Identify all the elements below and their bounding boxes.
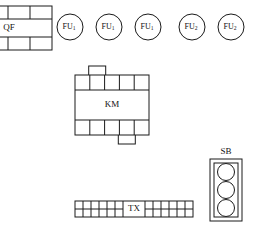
strip-label: TX bbox=[128, 203, 140, 213]
breaker-label: QF bbox=[3, 22, 15, 32]
pushbutton-station-label: SB bbox=[220, 146, 231, 156]
pushbutton-3[interactable] bbox=[218, 200, 235, 217]
pushbutton-2[interactable] bbox=[218, 182, 235, 199]
panel-layout-diagram: QFFU1FU1FU1FU2FU2KMTXSB bbox=[0, 0, 257, 234]
contactor-label: KM bbox=[105, 99, 120, 109]
pushbutton-1[interactable] bbox=[218, 164, 235, 181]
diagram-canvas: QFFU1FU1FU1FU2FU2KMTXSB bbox=[0, 0, 257, 234]
